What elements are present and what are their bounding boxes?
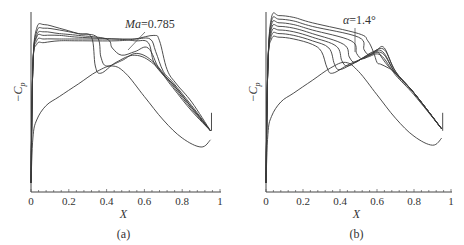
x-tick-label: 0 [28,195,34,207]
cp-curve-upper-2 [266,32,442,183]
x-tick-label: 0.6 [138,195,152,207]
x-tick-label: 0.4 [100,195,114,207]
x-tick-label: 0.6 [370,195,384,207]
x-tick-label: 1 [448,195,454,207]
x-tick-label: 0.2 [62,195,76,207]
annotation-label: α=1.4° [343,13,376,27]
chart-panel-a: 00.20.40.60.81X−Cp(a)Ma=0.785 [0,0,232,245]
cp-curve-upper-6 [266,17,442,183]
cp-curve-upper-4 [266,24,442,183]
x-tick-label: 0.8 [407,195,421,207]
x-tick-label: 0.8 [175,195,189,207]
cp-curve-upper-2 [31,28,211,183]
annotation-label: Ma=0.785 [124,17,175,31]
axes: 00.20.40.60.81X−Cp [246,12,454,221]
cp-curve-upper-3 [31,31,211,183]
cp-curve-upper-1 [266,36,442,183]
cp-curve-lower [266,62,442,183]
axes: 00.20.40.60.81X−Cp [11,12,223,221]
cp-curve-upper-6 [31,35,211,183]
x-axis-title: X [352,207,361,221]
y-axis-title: −Cp [246,83,262,102]
annotation-leader-line [128,32,145,50]
x-tick-label: 0.4 [333,195,347,207]
y-axis-title: −Cp [11,83,27,102]
chart-b-svg: 00.20.40.60.81X−Cp(b)α=1.4° [232,0,464,245]
x-tick-label: 0 [263,195,269,207]
x-axis-title: X [119,207,128,221]
cp-curve-upper-1 [31,24,211,183]
chart-panel-b: 00.20.40.60.81X−Cp(b)α=1.4° [232,0,464,245]
cp-curve-lower [31,66,211,183]
cp-curve-upper-3 [266,28,442,183]
cp-curve-upper-5 [266,21,442,183]
x-tick-label: 0.2 [296,195,310,207]
series-group [31,24,211,183]
series-group [266,13,443,183]
cp-curve-upper-4 [31,34,211,183]
panel-caption: (a) [117,227,130,241]
chart-a-svg: 00.20.40.60.81X−Cp(a)Ma=0.785 [0,0,232,245]
panel-caption: (b) [350,227,364,241]
x-tick-label: 1 [217,195,223,207]
